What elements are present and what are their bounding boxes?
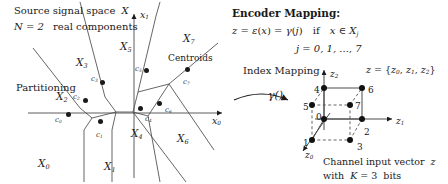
region-X6: X6 bbox=[177, 133, 189, 145]
centroids-label: Centroids bbox=[168, 54, 213, 63]
region-X7-sub: 7 bbox=[190, 38, 194, 46]
axis-z2-sub: 2 bbox=[335, 73, 339, 79]
centroid-c5-dot bbox=[144, 68, 149, 73]
region-X3-sub: 3 bbox=[83, 62, 87, 70]
region-X4: X4 bbox=[131, 128, 143, 140]
cube-axis-label-z0: z0 bbox=[305, 151, 313, 161]
cube-node-6-label: 6 bbox=[368, 86, 374, 95]
source-space-caption-line1: Source signal space X bbox=[14, 6, 129, 16]
cube-node-5-label: 5 bbox=[303, 103, 309, 112]
cube-axis-label-z2: z2 bbox=[330, 70, 338, 80]
centroid-c6-label: c6 bbox=[165, 107, 172, 114]
formula-if: if bbox=[313, 25, 320, 36]
centroid-c2-label: c2 bbox=[73, 94, 80, 101]
formula-in: ∈ bbox=[339, 25, 346, 36]
source-space-caption-line2: N = 2 real components bbox=[14, 22, 138, 32]
centroid-c1-dot bbox=[98, 119, 103, 124]
formula-paren-close: ) bbox=[267, 25, 271, 36]
centroid-c5-label: c5 bbox=[135, 66, 142, 73]
axis-z1-sub: 1 bbox=[401, 120, 405, 126]
centroid-c1-label: c1 bbox=[96, 132, 103, 139]
region-X5: X5 bbox=[120, 41, 132, 53]
centroid-c4-label: c4 bbox=[145, 116, 152, 123]
z-vector-set-label: z = {z0, z1, z2} bbox=[366, 65, 436, 76]
centroid-c2-dot bbox=[83, 98, 88, 103]
axis-z0-sub: 0 bbox=[310, 154, 314, 160]
region-X3: X3 bbox=[76, 57, 88, 69]
cube-node-1-dot bbox=[309, 137, 315, 143]
n-components-text: real components bbox=[53, 21, 138, 32]
formula-eq1: = bbox=[240, 25, 248, 36]
gamma-function-label: γ() bbox=[268, 90, 283, 101]
axis-label-x0: x0 bbox=[212, 116, 221, 127]
cube-node-5-dot bbox=[309, 102, 315, 108]
index-mapping-label: Index Mapping bbox=[243, 66, 320, 76]
channel-caption-sym: z bbox=[431, 156, 436, 167]
formula-x2: x bbox=[330, 25, 336, 36]
cube-node-4-label: 4 bbox=[314, 86, 320, 95]
formula-eq2: = bbox=[274, 25, 282, 36]
figure-root: Source signal space X N = 2 real compone… bbox=[0, 0, 448, 184]
n-components-value: N = 2 bbox=[14, 21, 44, 32]
encoder-mapping-heading: Encoder Mapping: bbox=[232, 8, 340, 19]
encoder-formula: z = ε(x) = γ(j) if x ∈ Xj bbox=[232, 26, 358, 37]
centroid-c7-dot bbox=[185, 67, 190, 72]
cube-node-2-label: 2 bbox=[364, 128, 370, 137]
region-X7: X7 bbox=[183, 33, 195, 45]
channel-caption-line2: with K = 3 bits bbox=[323, 171, 401, 181]
centroid-c0-label: c0 bbox=[55, 117, 62, 124]
cube-node-6-dot bbox=[359, 85, 365, 91]
cube-node-2-dot bbox=[359, 116, 365, 122]
centroid-c0-dot bbox=[66, 112, 71, 117]
region-X6-sub: 6 bbox=[184, 138, 188, 146]
cube-node-7-dot bbox=[347, 102, 353, 108]
region-X4-sub: 4 bbox=[138, 133, 142, 141]
region-X5-sub: 5 bbox=[127, 46, 131, 54]
source-space-caption-text: Source signal space bbox=[14, 5, 115, 16]
cube-node-3-label: 3 bbox=[357, 143, 363, 152]
index-range-line: j = 0, 1, ..., 7 bbox=[296, 44, 362, 54]
cube-node-7-label: 7 bbox=[355, 102, 361, 111]
formula-paren-close2: ) bbox=[299, 25, 303, 36]
channel-caption-text: Channel input vector bbox=[323, 156, 425, 167]
region-X2-sub: 2 bbox=[63, 96, 67, 104]
region-X1: X1 bbox=[104, 161, 116, 173]
cube-node-0-label: 0 bbox=[316, 113, 322, 122]
cube-axis-label-z1: z1 bbox=[396, 117, 404, 127]
axis-x1-sub: 1 bbox=[145, 14, 149, 20]
source-space-symbol: X bbox=[122, 5, 129, 16]
formula-Xj-sub: j bbox=[356, 30, 358, 37]
region-X2: X2 bbox=[56, 91, 68, 103]
cube-node-3-dot bbox=[347, 137, 353, 143]
centroid-c3-label: c3 bbox=[91, 76, 98, 83]
centroid-c3-dot bbox=[100, 80, 105, 85]
axis-label-x1: x1 bbox=[140, 10, 149, 21]
axis-x0-sub: 0 bbox=[217, 120, 221, 126]
region-X1-sub: 1 bbox=[111, 166, 115, 174]
centroid-c7-label: c7 bbox=[183, 79, 190, 86]
formula-z: z bbox=[232, 25, 237, 36]
region-X0: X0 bbox=[38, 158, 50, 170]
centroid-c6-dot bbox=[157, 101, 162, 106]
region-X0-sub: 0 bbox=[45, 163, 49, 171]
cube-node-1-label: 1 bbox=[303, 139, 309, 148]
cube-node-4-dot bbox=[321, 85, 327, 91]
channel-caption-line1: Channel input vector z bbox=[323, 157, 436, 167]
centroid-c4-dot bbox=[138, 106, 143, 111]
